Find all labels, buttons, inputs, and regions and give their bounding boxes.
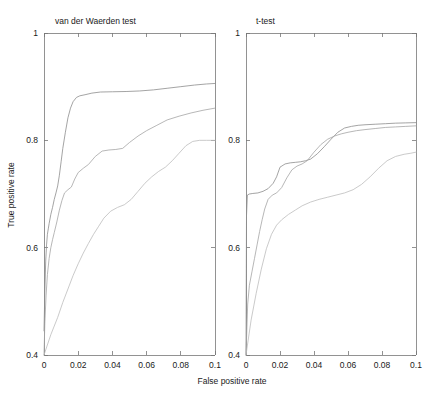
x-tick-label: 0.1 xyxy=(209,360,221,370)
roc-curve-1 xyxy=(246,123,416,355)
x-tick-label: 0.08 xyxy=(374,360,391,370)
y-tick-label: 1 xyxy=(235,28,240,38)
roc-figure: 00.020.040.060.080.10.40.60.81van der Wa… xyxy=(0,0,435,398)
y-axis-title: True positive rate xyxy=(6,162,16,228)
roc-chart-svg: 00.020.040.060.080.10.40.60.81van der Wa… xyxy=(0,0,435,398)
y-tick-label: 0.4 xyxy=(26,350,38,360)
roc-curve-3 xyxy=(44,140,215,355)
y-tick-label: 0.8 xyxy=(26,135,38,145)
panel-title: van der Waerden test xyxy=(55,16,137,26)
y-tick-label: 0.8 xyxy=(228,135,240,145)
roc-curve-1 xyxy=(44,83,215,330)
x-tick-label: 0.02 xyxy=(70,360,87,370)
x-tick-label: 0.02 xyxy=(272,360,289,370)
x-tick-label: 0.06 xyxy=(138,360,155,370)
y-tick-label: 0.6 xyxy=(26,243,38,253)
y-tick-label: 1 xyxy=(33,28,38,38)
y-tick-label: 0.6 xyxy=(228,243,240,253)
panel-van-der-waerden: 00.020.040.060.080.10.40.60.81van der Wa… xyxy=(26,16,221,370)
x-tick-label: 0.06 xyxy=(340,360,357,370)
panel-title: t-test xyxy=(256,16,276,26)
x-axis-title: False positive rate xyxy=(198,376,267,386)
panel-t-test: 00.020.040.060.080.10.40.60.81t-test xyxy=(228,16,422,370)
y-tick-label: 0.4 xyxy=(228,350,240,360)
x-tick-label: 0.1 xyxy=(410,360,422,370)
x-tick-label: 0.04 xyxy=(104,360,121,370)
x-tick-label: 0 xyxy=(42,360,47,370)
roc-curve-3 xyxy=(246,152,416,355)
x-tick-label: 0.08 xyxy=(173,360,190,370)
roc-curve-2 xyxy=(246,126,416,355)
roc-curve-2 xyxy=(44,108,215,355)
x-tick-label: 0 xyxy=(244,360,249,370)
x-tick-label: 0.04 xyxy=(306,360,323,370)
